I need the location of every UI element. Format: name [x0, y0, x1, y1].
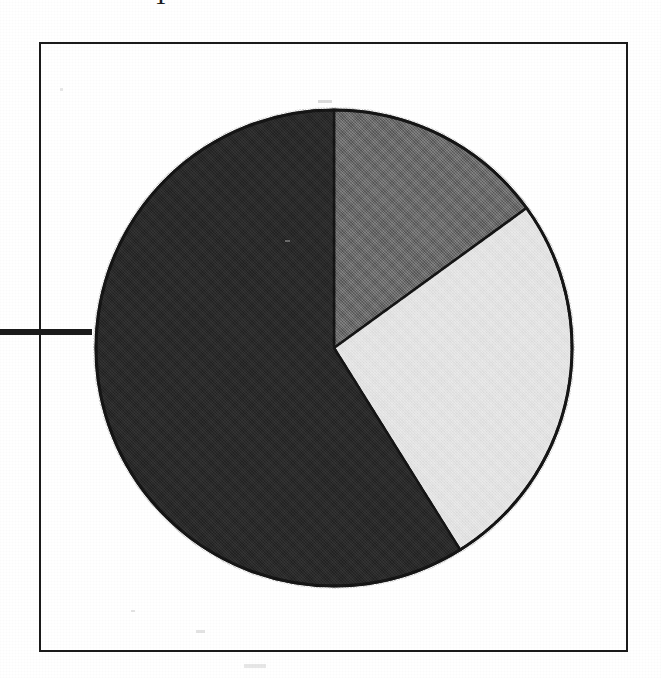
slice-value-segment-3: 59%: [0, 0, 1, 1]
slice-value-segment-2: 26%: [0, 0, 1, 1]
leader-callout-line: [0, 329, 92, 335]
pie-chart: [93, 107, 575, 589]
pie-chart-svg: [93, 107, 575, 589]
pie-slices: [96, 110, 572, 586]
figure-page: T 15% 26% 59%: [0, 0, 661, 678]
cropped-glyph-text: T: [149, 0, 173, 6]
scan-speck: [244, 664, 266, 668]
cropped-glyph: T: [149, 0, 173, 6]
slice-value-segment-1: 15%: [0, 0, 1, 1]
